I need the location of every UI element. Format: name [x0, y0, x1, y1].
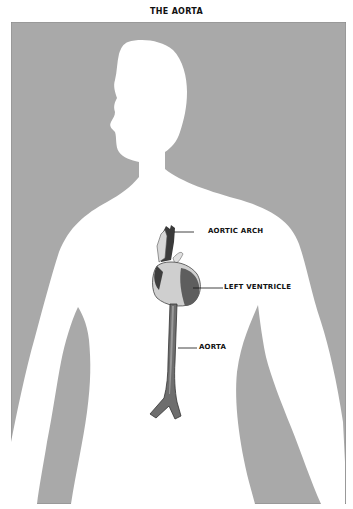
- diagram-title: THE AORTA: [0, 7, 353, 16]
- diagram-panel: AORTIC ARCH LEFT VENTRICLE AORTA: [11, 22, 346, 504]
- label-left-ventricle: LEFT VENTRICLE: [224, 283, 291, 291]
- label-aorta: AORTA: [199, 343, 226, 351]
- human-silhouette-illustration: [11, 22, 346, 504]
- label-aortic-arch: AORTIC ARCH: [208, 227, 263, 235]
